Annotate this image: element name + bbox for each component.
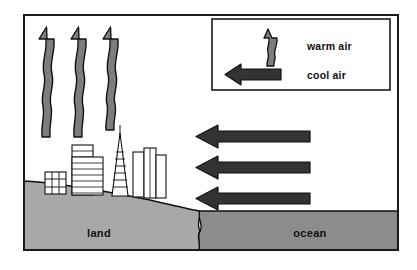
air-movement-legend: warm air cool air [212,19,390,90]
diagram-canvas: land ocean warm air cool air [0,0,417,270]
land-label: land [87,227,111,239]
building-rect-tower-right [156,155,166,198]
building-striped-wide [72,157,103,195]
legend-label-warm-air: warm air [306,40,352,52]
cool-air-arrow-group [196,125,310,210]
legend-label-cool-air: cool air [307,69,346,81]
building-rect-tower-center [144,148,156,198]
sea-breeze-diagram: land ocean warm air cool air [0,0,417,270]
ocean-label: ocean [293,227,326,239]
building-rect-tower-left [133,152,144,197]
building-low-grid [45,172,66,194]
